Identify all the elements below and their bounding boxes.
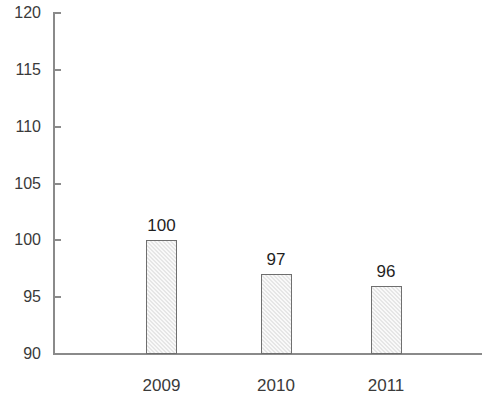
bar xyxy=(146,240,177,354)
bar-value-label: 100 xyxy=(122,217,202,234)
y-axis-tick-label: 110 xyxy=(0,119,41,135)
x-axis-category-label: 2010 xyxy=(236,377,316,394)
bar-value-label: 97 xyxy=(236,251,316,268)
bar-chart: 9095100105110115120 1002009972010962011 xyxy=(0,0,482,400)
y-axis-tick-label: 105 xyxy=(0,176,41,192)
y-axis-tick-label: 120 xyxy=(0,5,41,21)
y-axis-tick-label: 115 xyxy=(0,62,41,78)
bar xyxy=(261,274,292,354)
bar xyxy=(371,286,402,354)
x-axis-category-label: 2009 xyxy=(122,377,202,394)
y-axis-tick-label: 100 xyxy=(0,232,41,248)
y-axis-tick-label: 90 xyxy=(0,346,41,362)
y-axis-tick-label: 95 xyxy=(0,289,41,305)
x-axis-category-label: 2011 xyxy=(346,377,426,394)
y-axis-line xyxy=(53,13,55,355)
bar-value-label: 96 xyxy=(346,263,426,280)
